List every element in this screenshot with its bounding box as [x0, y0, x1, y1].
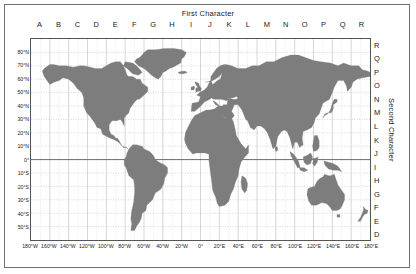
first-character-label-Q: Q — [340, 20, 346, 29]
longitude-tick: 160°W — [41, 243, 57, 249]
landmass-japan — [323, 99, 337, 118]
landmass-australia — [307, 174, 345, 210]
first-character-title: First Character — [0, 9, 416, 18]
latitude-tick: 70°N — [17, 62, 29, 68]
second-character-title: Second Character — [387, 98, 396, 162]
longitude-tick: 80°E — [271, 243, 282, 249]
second-character-label-D: D — [374, 230, 379, 239]
second-character-label-F: F — [374, 203, 379, 212]
longitude-tick: 120°E — [307, 243, 321, 249]
first-character-label-N: N — [283, 20, 288, 29]
second-character-axis: RQPONMLKJIHGFED — [374, 38, 386, 241]
first-character-label-I: I — [190, 20, 192, 29]
latitude-tick: 50°S — [18, 224, 29, 230]
first-character-label-G: G — [150, 20, 156, 29]
first-character-label-K: K — [226, 20, 231, 29]
first-character-label-A: A — [37, 20, 42, 29]
longitude-tick: 120°W — [79, 243, 95, 249]
second-character-label-L: L — [374, 121, 378, 130]
longitude-tick: 0° — [198, 243, 203, 249]
latitude-tick: 20°S — [18, 184, 29, 190]
second-character-label-N: N — [374, 94, 379, 103]
longitude-tick: 60°E — [252, 243, 263, 249]
first-character-label-C: C — [75, 20, 80, 29]
longitude-tick: 80°W — [118, 243, 131, 249]
latitude-tick: 20°N — [17, 130, 29, 136]
landmass-africa — [184, 110, 248, 206]
landmass-madagascar — [241, 176, 248, 193]
latitude-tick: 40°N — [17, 103, 29, 109]
latitude-tick: 0° — [24, 157, 29, 163]
longitude-tick: 20°E — [214, 243, 225, 249]
latitude-tick: 10°N — [17, 143, 29, 149]
second-character-label-R: R — [374, 40, 379, 49]
longitude-tick: 40°E — [233, 243, 244, 249]
longitude-tick: 180°E — [364, 243, 378, 249]
longitude-tick: 140°W — [60, 243, 76, 249]
landmass-north-america — [42, 62, 147, 149]
first-character-label-D: D — [94, 20, 99, 29]
latitude-tick: 80°N — [17, 49, 29, 55]
landmass-sri-lanka — [275, 146, 278, 151]
longitude-tick: 140°E — [326, 243, 340, 249]
landmass-iceland — [178, 71, 187, 74]
second-character-label-E: E — [374, 216, 379, 225]
landmass-tasmania — [337, 215, 340, 218]
longitude-tick: 20°W — [175, 243, 188, 249]
map-plot-area — [30, 38, 371, 241]
first-character-label-O: O — [302, 20, 308, 29]
latitude-tick: 50°N — [17, 89, 29, 95]
landmass-indonesia-sulawesi — [313, 157, 319, 166]
latitude-tick: 10°S — [18, 170, 29, 176]
longitude-tick: 180°W — [22, 243, 38, 249]
first-character-axis: ABCDEFGHIJKLMNOPQR — [30, 20, 371, 32]
world-grid-figure: First Character ABCDEFGHIJKLMNOPQR 80°N7… — [0, 0, 416, 274]
landmass-south-america — [124, 145, 167, 231]
first-character-label-R: R — [359, 20, 364, 29]
latitude-tick: 30°S — [18, 197, 29, 203]
landmass-indonesia-java — [299, 168, 307, 172]
landmass-new-guinea — [324, 161, 342, 172]
first-character-label-F: F — [132, 20, 137, 29]
second-character-label-H: H — [374, 176, 379, 185]
world-map-svg — [31, 39, 370, 240]
landmass-greenland — [135, 48, 187, 79]
second-character-label-I: I — [374, 162, 376, 171]
latitude-tick: 30°N — [17, 116, 29, 122]
second-character-label-J: J — [374, 149, 378, 158]
first-character-label-H: H — [169, 20, 174, 29]
second-character-label-G: G — [374, 189, 380, 198]
latitude-tick: 40°S — [18, 211, 29, 217]
longitude-tick: 160°E — [345, 243, 359, 249]
first-character-label-E: E — [113, 20, 118, 29]
second-character-label-Q: Q — [374, 54, 380, 63]
longitude-tick: 60°W — [137, 243, 150, 249]
first-character-label-L: L — [246, 20, 250, 29]
first-character-label-P: P — [321, 20, 326, 29]
second-character-label-P: P — [374, 67, 379, 76]
second-character-label-M: M — [374, 108, 380, 117]
landmass-ireland — [191, 86, 195, 90]
longitude-tick: 40°W — [156, 243, 169, 249]
latitude-tick: 60°N — [17, 76, 29, 82]
longitude-tick: 100°W — [98, 243, 114, 249]
longitude-axis-labels: 180°W160°W140°W120°W100°W80°W60°W40°W20°… — [30, 243, 371, 255]
first-character-label-J: J — [208, 20, 212, 29]
first-character-label-M: M — [264, 20, 270, 29]
longitude-tick: 100°E — [288, 243, 302, 249]
second-character-label-O: O — [374, 81, 380, 90]
first-character-label-B: B — [56, 20, 61, 29]
second-character-label-K: K — [374, 135, 379, 144]
landmass-new-zealand — [358, 207, 368, 222]
landmass-indonesia-borneo — [303, 153, 312, 165]
latitude-axis-labels: 80°N70°N60°N50°N40°N30°N20°N10°N0°10°S20… — [8, 38, 29, 241]
